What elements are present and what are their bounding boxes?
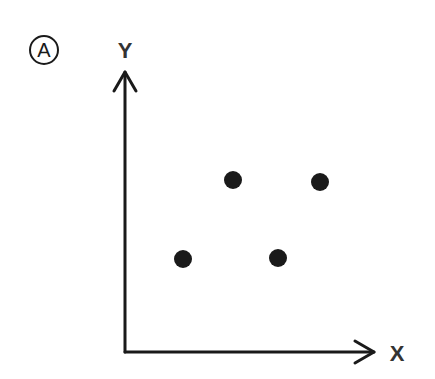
y-axis xyxy=(114,72,136,352)
data-point xyxy=(311,173,329,191)
x-axis-label: X xyxy=(390,341,405,366)
panel-label: A xyxy=(30,36,58,64)
data-point xyxy=(224,171,242,189)
data-point xyxy=(269,249,287,267)
data-point xyxy=(174,250,192,268)
x-axis xyxy=(125,341,374,363)
scatter-diagram: A Y X xyxy=(0,0,435,379)
svg-text:A: A xyxy=(37,39,51,61)
data-points xyxy=(174,171,329,268)
y-axis-label: Y xyxy=(118,38,133,63)
